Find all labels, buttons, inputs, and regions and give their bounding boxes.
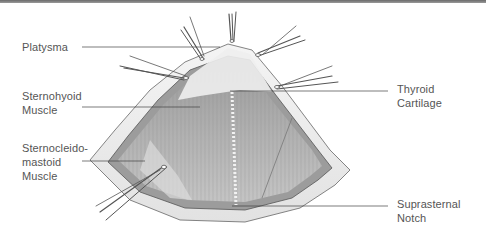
label-suprasternal-notch: Suprasternal Notch	[397, 197, 461, 225]
label-sternocleidomastoid-muscle: Sternocleido- mastoid Muscle	[22, 141, 88, 183]
label-sternohyoid-muscle: Sternohyoid Muscle	[22, 89, 82, 117]
label-platysma: Platysma	[22, 40, 68, 54]
label-thyroid-cartilage: Thyroid Cartilage	[397, 82, 442, 110]
